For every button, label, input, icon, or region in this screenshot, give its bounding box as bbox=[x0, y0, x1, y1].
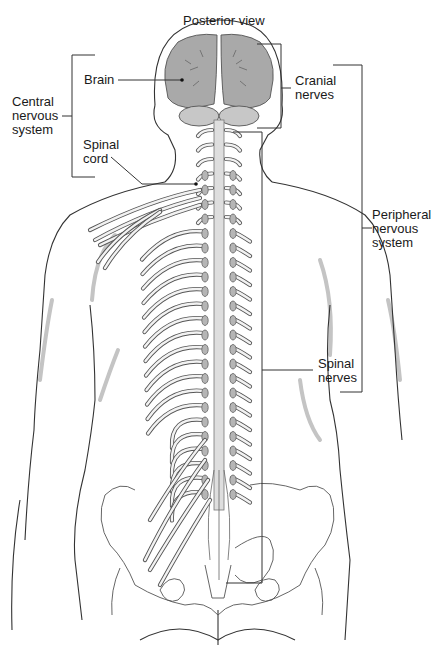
spinal-cord-label-line-2: cord bbox=[83, 152, 119, 166]
right-ganglion bbox=[230, 316, 236, 326]
right-ganglion bbox=[230, 432, 236, 442]
view-title: Posterior view bbox=[183, 14, 265, 28]
left-ganglion bbox=[202, 229, 208, 239]
pns-label-line-3: system bbox=[372, 236, 431, 250]
right-ganglion bbox=[230, 461, 236, 471]
left-ganglion bbox=[202, 388, 208, 398]
right-ganglion bbox=[230, 229, 236, 239]
lumbosacral-plexus-nerve-core bbox=[150, 480, 208, 570]
right-ganglion bbox=[230, 374, 236, 384]
right-ganglion bbox=[230, 301, 236, 311]
right-ganglion bbox=[230, 359, 236, 369]
nervous-system-diagram: Posterior view Brain Spinal cord Central… bbox=[0, 0, 439, 657]
brain-label: Brain bbox=[84, 73, 114, 87]
right-ganglion bbox=[230, 272, 236, 282]
cranial-label-line-2: nerves bbox=[295, 88, 336, 102]
left-ganglion bbox=[202, 417, 208, 427]
spinal-nerves-label-line-2: nerves bbox=[318, 371, 357, 385]
spinal-cord-label: Spinal cord bbox=[83, 138, 119, 166]
right-ganglion bbox=[230, 446, 236, 456]
left-ganglion bbox=[202, 446, 208, 456]
pns-label-line-2: nervous bbox=[372, 222, 431, 236]
central-nervous-system-label: Central nervous system bbox=[12, 95, 58, 137]
left-ganglion bbox=[202, 287, 208, 297]
cranial-nerves-label: Cranial nerves bbox=[295, 74, 336, 102]
right-ganglion bbox=[230, 258, 236, 268]
right-ganglion bbox=[230, 243, 236, 253]
cranial-label-line-1: Cranial bbox=[295, 74, 336, 88]
peripheral-nervous-system-label: Peripheral nervous system bbox=[372, 208, 431, 250]
left-ganglion bbox=[202, 171, 208, 181]
cns-label-line-3: system bbox=[12, 123, 58, 137]
left-ganglion bbox=[202, 200, 208, 210]
right-ganglion bbox=[230, 417, 236, 427]
cns-label-line-1: Central bbox=[12, 95, 58, 109]
left-ganglion bbox=[202, 316, 208, 326]
pns-label-line-1: Peripheral bbox=[372, 208, 431, 222]
right-ganglion bbox=[230, 403, 236, 413]
spinal-cord-label-line-1: Spinal bbox=[83, 138, 119, 152]
spinal-nerves-label: Spinal nerves bbox=[318, 357, 357, 385]
left-ganglion bbox=[202, 345, 208, 355]
left-ganglion bbox=[202, 374, 208, 384]
anatomy-illustration bbox=[0, 0, 439, 657]
right-ganglion bbox=[230, 388, 236, 398]
left-ganglion bbox=[202, 185, 208, 195]
right-ganglion bbox=[230, 475, 236, 485]
left-ganglion bbox=[202, 258, 208, 268]
right-ganglion bbox=[230, 330, 236, 340]
cns-label-line-2: nervous bbox=[12, 109, 58, 123]
right-ganglion bbox=[230, 490, 236, 500]
right-ganglion bbox=[230, 171, 236, 181]
spinal-nerves-label-line-1: Spinal bbox=[318, 357, 357, 371]
right-ganglion bbox=[230, 185, 236, 195]
left-ganglion bbox=[202, 403, 208, 413]
left-ganglion bbox=[202, 330, 208, 340]
right-ganglion bbox=[230, 200, 236, 210]
left-ganglion bbox=[202, 272, 208, 282]
left-ganglion bbox=[202, 243, 208, 253]
left-ganglion bbox=[202, 301, 208, 311]
right-ganglion bbox=[230, 345, 236, 355]
left-ganglion bbox=[202, 214, 208, 224]
left-ganglion bbox=[202, 359, 208, 369]
right-ganglion bbox=[230, 214, 236, 224]
right-ganglion bbox=[230, 287, 236, 297]
